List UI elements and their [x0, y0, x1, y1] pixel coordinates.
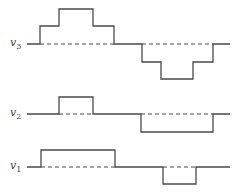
label-v1: v1: [10, 160, 21, 174]
label-v3: v3: [10, 37, 21, 51]
label-v2: v2: [10, 107, 21, 121]
waveform-diagram: [0, 0, 242, 193]
